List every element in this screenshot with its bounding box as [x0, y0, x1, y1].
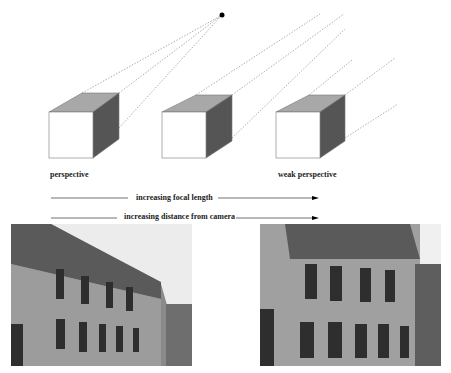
cube-middle [162, 95, 232, 158]
label-increasing-focal-length: increasing focal length [136, 193, 213, 202]
perspective-diagram [0, 0, 451, 220]
label-perspective: perspective [50, 170, 89, 179]
projection-lines [82, 14, 398, 138]
photo-building-far [11, 224, 192, 366]
label-weak-perspective: weak perspective [278, 170, 336, 179]
cube-weak-perspective [276, 95, 345, 158]
label-increasing-distance: increasing distance from camera [124, 212, 235, 221]
center-of-projection-dot [220, 13, 225, 18]
cube-perspective [49, 93, 119, 158]
photo-building-near [260, 224, 441, 366]
